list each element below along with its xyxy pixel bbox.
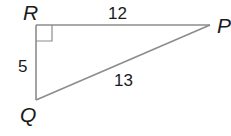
side-label-rq: 5 (18, 57, 27, 76)
side-label-rp: 12 (108, 4, 127, 23)
side-label-qp: 13 (114, 71, 133, 90)
vertex-label-q: Q (20, 103, 36, 126)
vertex-label-r: R (23, 1, 38, 24)
right-angle-marker-icon (36, 25, 52, 41)
triangle-diagram: R P Q 12 5 13 (0, 0, 231, 136)
vertex-label-p: P (217, 14, 231, 37)
